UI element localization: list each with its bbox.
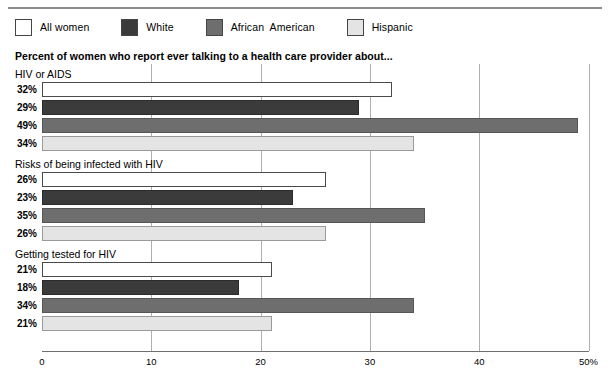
- bar[interactable]: [42, 298, 414, 313]
- bar-value-label: 34%: [0, 299, 37, 312]
- chart-subtitle: Percent of women who report ever talking…: [15, 50, 393, 62]
- bar[interactable]: [42, 100, 359, 115]
- bar[interactable]: [42, 226, 326, 241]
- bar-row: 23%: [0, 190, 610, 205]
- bar-row: 26%: [0, 172, 610, 187]
- bar-row: 32%: [0, 82, 610, 97]
- legend-label: African American: [231, 21, 315, 33]
- bar-value-label: 29%: [0, 101, 37, 114]
- bar-value-label: 21%: [0, 263, 37, 276]
- bar-value-label: 26%: [0, 227, 37, 240]
- chart-legend: All womenWhiteAfrican AmericanHispanic: [15, 16, 413, 38]
- x-tick-label-10: 10: [146, 356, 157, 367]
- bar-value-label: 26%: [0, 173, 37, 186]
- legend-label: All women: [40, 21, 89, 33]
- header-divider: [8, 7, 602, 9]
- bar-value-label: 18%: [0, 281, 37, 294]
- bar-row: 21%: [0, 316, 610, 331]
- legend-swatch-icon: [347, 19, 364, 36]
- legend-swatch-icon: [121, 19, 138, 36]
- legend-item-3[interactable]: Hispanic: [347, 19, 413, 36]
- group-label: HIV or AIDS: [15, 68, 72, 80]
- x-axis-line: [42, 351, 589, 352]
- legend-swatch-icon: [15, 19, 32, 36]
- bar[interactable]: [42, 316, 272, 331]
- bar-value-label: 35%: [0, 209, 37, 222]
- x-tick-label-40: 40: [474, 356, 485, 367]
- legend-item-2[interactable]: African American: [206, 19, 315, 36]
- group-label: Risks of being infected with HIV: [15, 158, 163, 170]
- legend-swatch-icon: [206, 19, 223, 36]
- bar-row: 18%: [0, 280, 610, 295]
- x-tick-label-20: 20: [255, 356, 266, 367]
- legend-label: Hispanic: [372, 21, 413, 33]
- legend-item-1[interactable]: White: [121, 19, 173, 36]
- plot-area: HIV or AIDS32%29%49%34%Risks of being in…: [0, 64, 610, 354]
- chart-container: All womenWhiteAfrican AmericanHispanic P…: [0, 0, 610, 390]
- bar-row: 34%: [0, 136, 610, 151]
- bar[interactable]: [42, 136, 414, 151]
- bar[interactable]: [42, 82, 392, 97]
- legend-item-0[interactable]: All women: [15, 19, 89, 36]
- bar-row: 49%: [0, 118, 610, 133]
- bar-row: 29%: [0, 100, 610, 115]
- bar-row: 26%: [0, 226, 610, 241]
- bar[interactable]: [42, 262, 272, 277]
- bar-value-label: 32%: [0, 83, 37, 96]
- bar-value-label: 49%: [0, 119, 37, 132]
- bar[interactable]: [42, 280, 239, 295]
- bar[interactable]: [42, 118, 578, 133]
- x-tick-label-50: 50%: [579, 356, 598, 367]
- x-tick-label-0: 0: [39, 356, 44, 367]
- x-axis-ticks: 01020304050%: [0, 356, 610, 372]
- bar[interactable]: [42, 208, 425, 223]
- legend-label: White: [146, 21, 173, 33]
- bar-row: 35%: [0, 208, 610, 223]
- bar-value-label: 23%: [0, 191, 37, 204]
- bar-value-label: 21%: [0, 317, 37, 330]
- bar-value-label: 34%: [0, 137, 37, 150]
- bar-row: 21%: [0, 262, 610, 277]
- bar[interactable]: [42, 172, 326, 187]
- bar[interactable]: [42, 190, 293, 205]
- group-label: Getting tested for HIV: [15, 248, 116, 260]
- bar-row: 34%: [0, 298, 610, 313]
- x-tick-label-30: 30: [365, 356, 376, 367]
